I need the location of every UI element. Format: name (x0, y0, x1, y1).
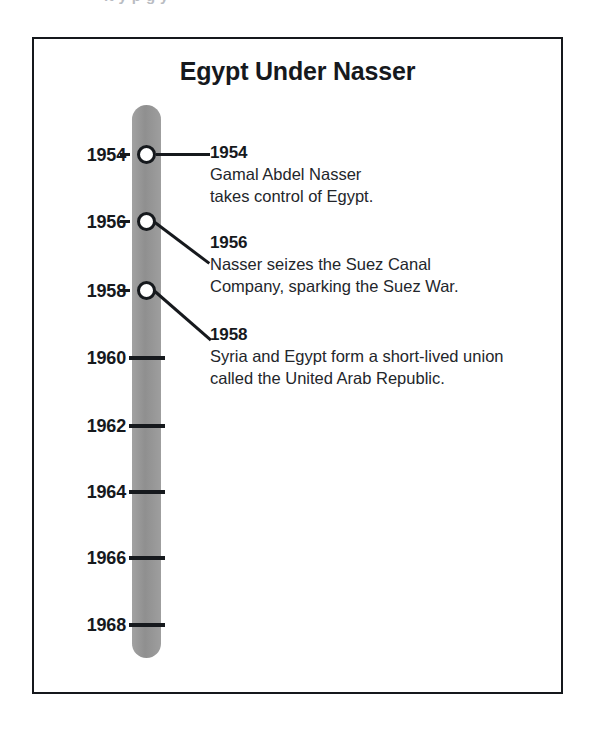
event-block-1956: 1956 Nasser seizes the Suez Canal Compan… (210, 233, 540, 297)
event-connector-1958 (154, 290, 212, 341)
axis-tick-mark-1954 (120, 153, 130, 156)
event-connector-1954 (156, 153, 210, 156)
axis-tick-label-1954: 1954 (64, 145, 126, 166)
timeline-bar (132, 105, 161, 658)
axis-tick-label-1956: 1956 (64, 212, 126, 233)
axis-tick-mark-1966 (129, 556, 165, 560)
axis-tick-mark-1968 (129, 623, 165, 627)
axis-tick-mark-1962 (129, 424, 165, 428)
event-year-1956: 1956 (210, 233, 540, 253)
axis-tick-mark-1964 (129, 490, 165, 494)
page-top-bleed: it y p g y (0, 0, 597, 12)
event-description-1956: Nasser seizes the Suez Canal Company, sp… (210, 253, 540, 297)
axis-tick-mark-1960 (129, 356, 165, 360)
chart-title: Egypt Under Nasser (34, 57, 561, 86)
event-block-1954: 1954 Gamal Abdel Nasser takes control of… (210, 143, 540, 207)
event-marker-1954[interactable] (137, 145, 156, 164)
axis-tick-label-1968: 1968 (64, 615, 126, 636)
event-connector-1956 (154, 221, 210, 264)
event-year-1954: 1954 (210, 143, 540, 163)
axis-tick-label-1966: 1966 (64, 548, 126, 569)
axis-tick-label-1964: 1964 (64, 482, 126, 503)
cut-off-text: it y p g y (104, 0, 169, 4)
event-block-1958: 1958 Syria and Egypt form a short-lived … (210, 325, 540, 389)
timeline-figure-frame: Egypt Under Nasser 1954 1954 Gamal Abdel… (32, 37, 563, 694)
axis-tick-label-1958: 1958 (64, 281, 126, 302)
axis-tick-label-1962: 1962 (64, 416, 126, 437)
axis-tick-mark-1956 (120, 220, 130, 223)
event-description-1958: Syria and Egypt form a short-lived union… (210, 345, 540, 389)
axis-tick-label-1960: 1960 (64, 348, 126, 369)
event-marker-1958[interactable] (137, 281, 156, 300)
axis-tick-mark-1958 (120, 289, 130, 292)
event-marker-1956[interactable] (137, 212, 156, 231)
event-year-1958: 1958 (210, 325, 540, 345)
event-description-1954: Gamal Abdel Nasser takes control of Egyp… (210, 163, 540, 207)
